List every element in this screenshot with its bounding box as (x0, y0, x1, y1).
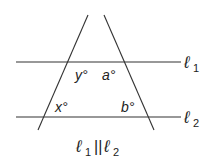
caption-l1: ℓ (75, 137, 82, 156)
caption-l2: ℓ (103, 137, 110, 156)
geometry-diagram: ℓ 1 ℓ 2 y° a° x° b° ℓ 1 || ℓ 2 (0, 0, 215, 165)
angle-y-label: y° (74, 67, 88, 83)
line-l2-subscript: 2 (193, 117, 199, 129)
line-l2-label: ℓ (183, 108, 190, 127)
caption-parallel-symbol: || (94, 138, 102, 155)
angle-a-label: a° (102, 67, 116, 83)
angle-x-label: x° (54, 99, 68, 115)
caption-l2-subscript: 2 (113, 146, 119, 158)
angle-b-label: b° (121, 99, 135, 115)
line-l1-label: ℓ (183, 53, 190, 72)
caption-l1-subscript: 1 (85, 146, 91, 158)
line-l1-subscript: 1 (193, 62, 199, 74)
